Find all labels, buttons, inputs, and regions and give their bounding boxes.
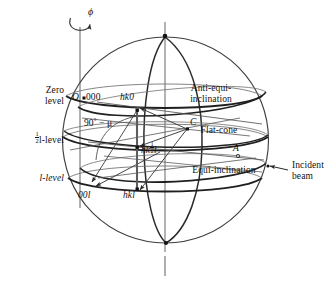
origin-point-label: O xyxy=(72,92,79,103)
hk-half-l-label: hk 1 2 l xyxy=(141,141,157,155)
equi-inclination-label: Equi-inclination xyxy=(178,165,270,176)
reflection-sphere-diagram: Zero level 1 2 l-level l-level Anti-equi… xyxy=(0,0,334,282)
anti-equi-inclination-label: Anti-equi- inclination xyxy=(178,83,244,104)
hk0-label: hk0 xyxy=(120,92,134,103)
incident-beam-arrow xyxy=(270,166,288,170)
angle-90-minus-mu-label: 90° − μ xyxy=(84,116,112,129)
incident-beam-label: Incident beam xyxy=(292,160,324,181)
hkl-label: hkl xyxy=(123,190,135,201)
lattice-point-markers xyxy=(83,34,270,245)
zero-level-label: Zero level xyxy=(8,85,64,106)
point-a-label: A xyxy=(233,143,239,154)
flat-cone-label: Flat-cone xyxy=(188,125,250,136)
00l-label: 00l xyxy=(78,190,90,201)
l-level-label: l-level xyxy=(6,173,64,184)
centre-point-label: C xyxy=(190,117,196,128)
half-l-level-label: 1 2 l-level xyxy=(4,131,64,145)
origin-index-label: 000 xyxy=(86,92,101,103)
phi-symbol-label: ϕ xyxy=(88,7,93,18)
